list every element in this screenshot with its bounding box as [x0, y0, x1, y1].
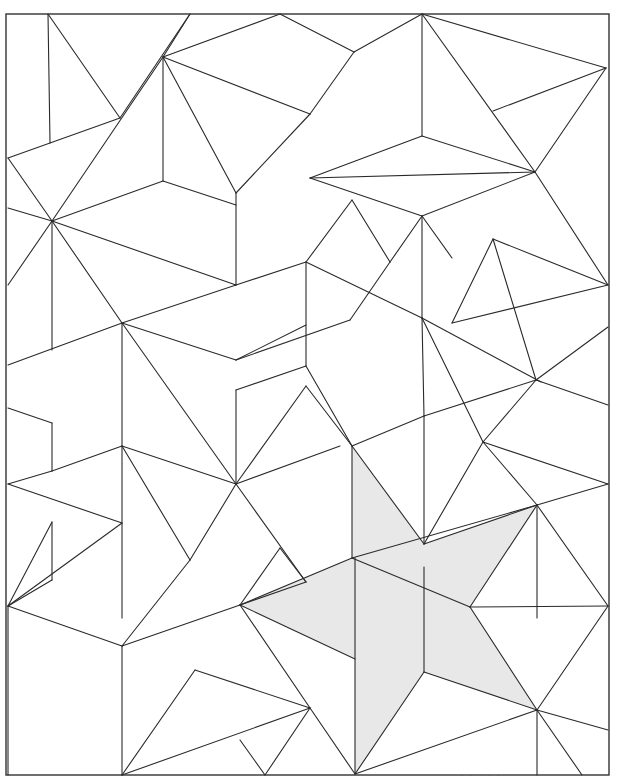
tiling-edge — [422, 14, 535, 172]
tiling-edge — [280, 14, 354, 52]
tiling-edge — [236, 262, 306, 285]
tiling-edge — [537, 710, 582, 775]
tiling-edge — [236, 114, 310, 193]
tiling-edge — [470, 606, 608, 607]
tiling-edge — [236, 386, 306, 484]
tiling-edge — [236, 484, 306, 582]
tiling-edge — [306, 386, 352, 446]
tiling-edge — [122, 285, 236, 323]
tiling-edge — [537, 484, 608, 505]
tiling-edge — [306, 262, 422, 318]
tiling-edge — [8, 221, 52, 285]
tiling-edge — [352, 200, 390, 262]
tiling-edge — [52, 446, 122, 471]
tiling-edge — [120, 14, 190, 118]
tiling-edge — [163, 14, 190, 57]
tiling-edge — [163, 57, 236, 193]
tiling-edge — [306, 366, 352, 446]
tiling-edge — [310, 172, 535, 178]
tiling-edge — [8, 408, 52, 423]
tiling-edge — [422, 318, 424, 416]
tiling-diagram — [0, 0, 620, 781]
tiling-edge — [8, 484, 122, 523]
tiling-edge — [493, 239, 536, 380]
tiling-edge — [8, 523, 122, 606]
tiling-edge — [390, 216, 422, 262]
tiling-edge — [537, 505, 608, 606]
tiling-edge — [8, 471, 52, 484]
tiling-edge — [52, 221, 122, 323]
tiling-edge — [493, 239, 608, 285]
tiling-edge — [236, 446, 340, 484]
tiling-edge — [536, 327, 608, 380]
tiling-edge — [280, 548, 306, 582]
tiling-edge — [52, 57, 163, 221]
tiling-edge — [452, 285, 608, 323]
tiling-edge — [422, 318, 541, 382]
tiling-edge — [422, 136, 535, 172]
tiling-edge — [52, 181, 163, 221]
tiling-edge — [163, 14, 280, 57]
tiling-edge — [537, 710, 608, 730]
tiling-edge — [422, 318, 483, 442]
tiling-edge — [122, 560, 190, 646]
tiling-edge — [48, 14, 120, 118]
page-caption: · · · · · — [460, 770, 502, 780]
tiling-edge — [265, 708, 310, 775]
tiling-edge — [350, 262, 390, 320]
tiling-edge — [163, 57, 310, 114]
tiling-edge — [536, 380, 608, 405]
tiling-edge — [8, 606, 122, 646]
tiling-edge — [537, 606, 608, 710]
tiling-edge — [122, 323, 236, 360]
tiling-edges — [8, 14, 608, 775]
tiling-edge — [310, 708, 355, 774]
tiling-edge — [422, 172, 535, 216]
tiling-edge — [8, 323, 122, 365]
tiling-edge — [240, 740, 265, 775]
tiling-edge — [8, 208, 52, 221]
tiling-edge — [535, 68, 606, 172]
tiling-edge — [236, 320, 350, 360]
tiling-edge — [8, 158, 52, 221]
tiling-edge — [422, 216, 452, 258]
tiling-edge — [163, 181, 236, 205]
tiling-edge — [236, 366, 306, 390]
tiling-edge — [310, 52, 354, 114]
tiling-edge — [122, 670, 195, 775]
tiling-edge — [8, 118, 120, 158]
tiling-edge — [190, 484, 236, 560]
tiling-edge — [236, 325, 306, 360]
tiling-edge — [122, 323, 236, 484]
tiling-edge — [48, 14, 50, 143]
tiling-edge — [122, 446, 190, 560]
tiling-edge — [122, 446, 236, 484]
tiling-edge — [310, 136, 422, 178]
tiling-edge — [310, 178, 422, 216]
tiling-edge — [452, 239, 493, 323]
tiling-edge — [493, 68, 606, 111]
tiling-edge — [483, 380, 536, 442]
tiling-edge — [122, 708, 310, 775]
tiling-edge — [424, 380, 536, 416]
tiling-edge — [52, 221, 236, 285]
tiling-edge — [306, 200, 352, 262]
tiling-edge — [535, 172, 608, 285]
tiling-edge — [195, 670, 310, 708]
tiling-edge — [352, 416, 424, 446]
diagram-frame — [6, 14, 609, 775]
tiling-edge — [122, 605, 240, 646]
tiling-edge — [354, 14, 422, 52]
tiling-edge — [422, 14, 606, 68]
tiling-edge — [483, 442, 608, 484]
